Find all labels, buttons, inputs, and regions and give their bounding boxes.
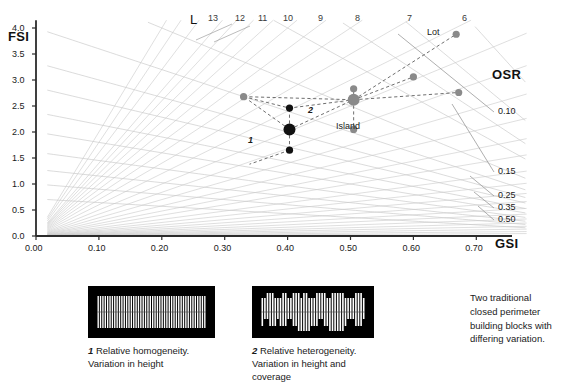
osr-label-0-25: 0.25 — [498, 191, 516, 200]
ridge-label-13: 13 — [208, 14, 218, 23]
osr-label-0-15: 0.15 — [498, 167, 516, 176]
figure-1: 1 Relative homogeneity. Variation in hei… — [88, 286, 215, 338]
figure-panel: 1 Relative homogeneity. Variation in hei… — [0, 268, 585, 387]
osr-label-0-50: 0.50 — [498, 215, 516, 224]
ridge-label-11: 11 — [258, 14, 267, 23]
x-tick-label-1: 0.10 — [88, 244, 106, 253]
ridge-label-12: 12 — [235, 14, 245, 23]
data-points — [240, 31, 462, 154]
x-tick-label-0: 0.00 — [25, 244, 43, 253]
note-line-2: closed perimeter — [470, 306, 540, 317]
auxiliary-gridlines — [196, 24, 250, 42]
figure-2-caption-line3: coverage — [252, 371, 291, 382]
data-point-s0-1 — [286, 104, 293, 111]
y-tick-label-1: 3.5 — [12, 50, 25, 59]
figure-1-caption-line1: Relative homogeneity. — [96, 345, 189, 356]
y-tick-label-5: 1.5 — [12, 154, 25, 163]
x-tick-label-6: 0.60 — [402, 244, 420, 253]
y-tick-label-0: 4.0 — [12, 24, 25, 33]
y-tick-label-8: 0.0 — [12, 232, 25, 241]
cluster-2-label: 2 — [308, 106, 313, 115]
note-line-3: building blocks with — [470, 320, 552, 331]
block2-graphic — [252, 286, 374, 338]
data-point-s1-0 — [348, 94, 360, 106]
osr-label-0-10: 0.10 — [498, 107, 516, 116]
figure-2-number: 2 — [252, 345, 257, 356]
x-axis-title: GSI — [495, 237, 518, 250]
data-point-s1-3 — [240, 93, 247, 100]
figure-2-caption-line2: Variation in height and — [252, 358, 346, 369]
note-line-4: differing variation. — [470, 333, 545, 344]
figure-2: 2 Relative heterogeneity. Variation in h… — [252, 286, 374, 338]
y-tick-label-4: 2.0 — [12, 128, 25, 137]
osr-gridlines — [47, 20, 525, 227]
data-point-s0-0 — [283, 123, 295, 135]
y-tick-label-6: 1.0 — [12, 180, 25, 189]
osr-title: OSR — [492, 68, 521, 81]
ridge-label-8: 8 — [355, 14, 360, 23]
data-point-s0-2 — [286, 147, 293, 154]
data-point-s1-1 — [350, 85, 357, 92]
axis-ticks — [32, 28, 476, 240]
ridge-title: L — [190, 13, 197, 26]
note-line-1: Two traditional — [470, 292, 531, 303]
lot-point-label: Lot — [427, 28, 440, 37]
figure-note: Two traditional closed perimeter buildin… — [470, 291, 585, 346]
figure-2-caption-line1: Relative heterogeneity. — [260, 345, 356, 356]
ridge-label-9: 9 — [318, 14, 323, 23]
island-point-label: Island — [336, 122, 360, 131]
osr-label-0-35: 0.35 — [498, 203, 516, 212]
y-tick-label-2: 3.0 — [12, 76, 25, 85]
data-point-s1-6 — [453, 31, 460, 38]
cluster-1-label: 1 — [248, 136, 253, 145]
ridge-label-6: 6 — [462, 14, 467, 23]
x-tick-label-5: 0.50 — [340, 244, 358, 253]
x-tick-label-2: 0.20 — [151, 244, 169, 253]
block-diagram-homogeneous — [88, 286, 215, 338]
figure-1-number: 1 — [88, 345, 93, 356]
x-tick-label-3: 0.30 — [214, 244, 232, 253]
block-diagram-heterogeneous — [252, 286, 374, 338]
data-point-s1-4 — [410, 73, 417, 80]
data-point-s1-5 — [455, 89, 462, 96]
y-tick-label-7: 0.5 — [12, 206, 25, 215]
x-tick-label-4: 0.40 — [277, 244, 295, 253]
figure-2-caption: 2 Relative heterogeneity. Variation in h… — [252, 344, 407, 383]
x-tick-label-7: 0.70 — [465, 244, 483, 253]
ridge-label-7: 7 — [407, 14, 412, 23]
ridge-label-10: 10 — [283, 14, 293, 23]
y-tick-label-3: 2.5 — [12, 102, 25, 111]
figure-1-caption-line2: Variation in height — [88, 358, 163, 369]
block1-graphic — [88, 286, 215, 338]
figure-1-caption: 1 Relative homogeneity. Variation in hei… — [88, 344, 238, 370]
